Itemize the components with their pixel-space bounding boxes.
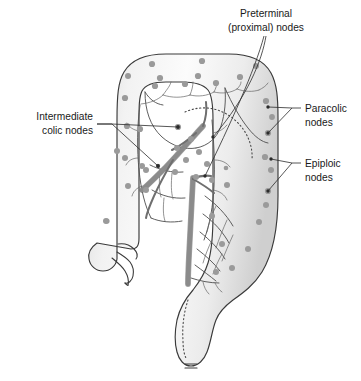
node-paracolic bbox=[199, 58, 205, 64]
node-paracolic bbox=[125, 73, 131, 79]
node-preterminal bbox=[183, 157, 189, 163]
node-sigmoid bbox=[209, 213, 215, 219]
label-intermediate-line1: Intermediate bbox=[36, 111, 93, 122]
node-preterminal bbox=[224, 182, 230, 188]
node-preterminal bbox=[224, 166, 229, 171]
node-sigmoid bbox=[213, 269, 219, 275]
leader-endpoint-intermediate-2 bbox=[156, 164, 160, 168]
node-paracolic bbox=[245, 246, 251, 252]
leader-endpoint-intermediate-1 bbox=[176, 125, 180, 129]
node-epiploic bbox=[268, 167, 274, 173]
node-paracolic bbox=[237, 74, 243, 80]
label-epiploic-line1: Epiploic bbox=[305, 158, 341, 169]
node-preterminal bbox=[188, 136, 194, 142]
node-paracolic bbox=[122, 155, 128, 161]
node-preterminal bbox=[196, 149, 202, 155]
node-intermediate bbox=[152, 83, 158, 89]
label-epiploic-line2: nodes bbox=[305, 172, 333, 183]
node-paracolic bbox=[263, 98, 269, 104]
leader-endpoint-preterminal-2 bbox=[203, 174, 206, 177]
node-sigmoid bbox=[219, 241, 225, 247]
node-paracolic bbox=[229, 265, 235, 271]
node-preterminal bbox=[193, 174, 199, 180]
node-preterminal bbox=[172, 169, 178, 175]
node-paracolic bbox=[262, 154, 268, 160]
node-preterminal bbox=[174, 145, 180, 151]
node-epiploic bbox=[263, 202, 269, 208]
label-paracolic-line1: Paracolic bbox=[305, 103, 347, 114]
leader-endpoint-epiploic-2 bbox=[266, 189, 269, 192]
label-preterminal-line2: (proximal) nodes bbox=[228, 22, 304, 33]
node-cecum bbox=[104, 218, 109, 223]
leader-endpoint-preterminal-1 bbox=[211, 135, 214, 138]
node-preterminal bbox=[209, 177, 215, 183]
colon-lymphatics-diagram: Preterminal (proximal) nodes Intermediat… bbox=[0, 0, 361, 381]
leader-endpoint-epiploic-1 bbox=[269, 157, 272, 160]
node-intermediate bbox=[213, 80, 219, 86]
node-preterminal bbox=[143, 187, 149, 193]
leader-endpoint-paracolic-1 bbox=[266, 105, 269, 108]
node-paracolic bbox=[114, 148, 120, 154]
node-paracolic bbox=[256, 219, 262, 225]
node-intermediate bbox=[137, 126, 143, 132]
node-intermediate bbox=[182, 81, 188, 87]
node-paracolic bbox=[122, 95, 128, 101]
node-paracolic bbox=[269, 114, 275, 120]
label-intermediate-line2: colic nodes bbox=[42, 125, 93, 136]
leader-endpoint-paracolic-2 bbox=[266, 131, 269, 134]
label-paracolic-line2: nodes bbox=[305, 117, 333, 128]
node-intermediate bbox=[143, 167, 149, 173]
node-paracolic bbox=[195, 73, 201, 79]
label-preterminal-line1: Preterminal bbox=[240, 8, 292, 19]
node-paracolic bbox=[125, 183, 131, 189]
node-paracolic bbox=[157, 75, 163, 81]
node-paracolic bbox=[124, 123, 130, 129]
node-paracolic bbox=[149, 61, 155, 67]
node-preterminal bbox=[204, 161, 210, 167]
